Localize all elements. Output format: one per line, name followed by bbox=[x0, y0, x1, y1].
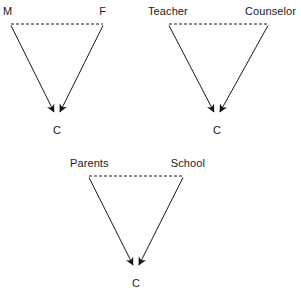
diagram-canvas bbox=[0, 0, 301, 304]
path-diagram-figure: M F C Teacher Counselor C Parents School… bbox=[0, 0, 301, 304]
node-label-school: School bbox=[171, 157, 205, 169]
triangle-mf-shape bbox=[11, 24, 103, 112]
node-label-f: F bbox=[99, 5, 106, 17]
triangle-teacher-counselor-shape bbox=[169, 24, 268, 112]
arrow-teacher-to-c bbox=[169, 26, 214, 113]
node-label-c-parents-school: C bbox=[132, 277, 140, 289]
node-label-teacher: Teacher bbox=[148, 5, 188, 17]
arrow-m-to-c bbox=[11, 26, 54, 113]
node-label-parents: Parents bbox=[70, 157, 109, 169]
node-label-c-teacher-counselor: C bbox=[213, 124, 221, 136]
arrow-parents-to-c bbox=[89, 178, 133, 266]
arrow-school-to-c bbox=[139, 178, 183, 266]
triangle-parents-school-shape bbox=[89, 176, 183, 265]
node-label-c-mf: C bbox=[53, 124, 61, 136]
node-label-counselor: Counselor bbox=[245, 5, 296, 17]
node-label-m: M bbox=[3, 5, 12, 17]
arrow-counselor-to-c bbox=[220, 26, 268, 113]
arrow-f-to-c bbox=[60, 26, 103, 113]
